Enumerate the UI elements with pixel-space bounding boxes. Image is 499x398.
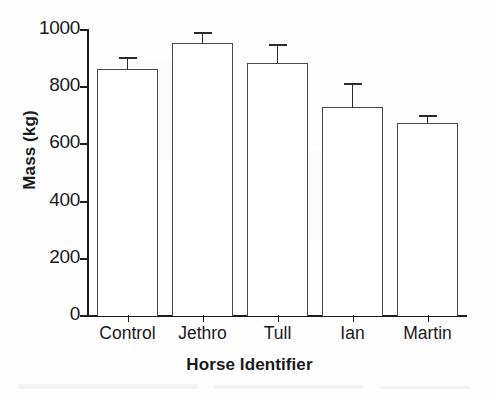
y-tick-label: 0 — [22, 303, 80, 325]
x-tick-mark — [128, 315, 129, 322]
bar-control — [97, 69, 158, 316]
bar-jethro — [172, 43, 233, 316]
x-tick-mark — [353, 315, 354, 322]
y-tick-mark — [80, 86, 87, 88]
bar-martin — [397, 123, 458, 316]
error-bar-cap-ian — [344, 83, 362, 85]
x-tick-mark — [203, 315, 204, 322]
bar-chart: 02004006008001000 ControlJethroTullIanMa… — [0, 0, 499, 398]
y-tick-mark — [80, 315, 87, 317]
error-bar-cap-martin — [419, 115, 437, 117]
error-bar-cap-tull — [269, 44, 287, 46]
y-tick-mark — [80, 29, 87, 31]
error-bar-stem-tull — [277, 44, 279, 63]
y-tick-label: 200 — [22, 246, 80, 268]
error-bar-cap-jethro — [194, 32, 212, 34]
x-tick-mark — [278, 315, 279, 322]
y-tick-mark — [80, 201, 87, 203]
y-tick-label: 1000 — [22, 17, 80, 39]
error-bar-cap-control — [119, 57, 137, 59]
x-axis-title: Horse Identifier — [0, 355, 499, 375]
chart-page: 02004006008001000 ControlJethroTullIanMa… — [0, 0, 499, 398]
error-bar-stem-ian — [352, 83, 354, 107]
y-axis-title: Mass (kg) — [20, 70, 40, 230]
bar-tull — [247, 63, 308, 316]
y-axis-line — [87, 29, 89, 317]
y-tick-mark — [80, 258, 87, 260]
bar-ian — [322, 107, 383, 316]
x-tick-mark — [428, 315, 429, 322]
x-tick-label-martin: Martin — [378, 323, 478, 344]
y-tick-mark — [80, 143, 87, 145]
